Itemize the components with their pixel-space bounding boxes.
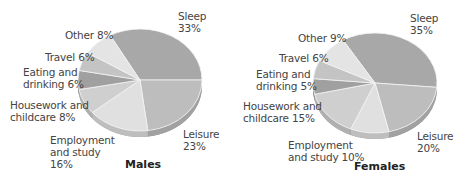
label-text: Employment [50, 134, 115, 146]
label-other: Other 8% [65, 29, 113, 41]
label-value: 33% [178, 22, 206, 34]
label-text: Travel 6% [45, 51, 94, 63]
label-sleep: Sleep 33% [178, 10, 206, 34]
label-value: childcare 15% [243, 112, 322, 124]
label-text: Sleep [178, 10, 206, 22]
label-text: Leisure [183, 128, 219, 140]
label-employment: Employment and study 10% [288, 139, 364, 163]
label-value: 16% [50, 158, 115, 170]
label-housework: Housework and childcare 8% [10, 99, 89, 123]
label-text: Eating and [256, 68, 317, 80]
label-value: drinking 5% [256, 80, 317, 92]
label-value: 20% [417, 142, 453, 154]
slice-leisure [140, 80, 202, 131]
label-text: Sleep [410, 12, 438, 24]
label-text: Leisure [417, 130, 453, 142]
label-value: 23% [183, 140, 219, 152]
label-text: Employment [288, 139, 364, 151]
label-sleep: Sleep 35% [410, 12, 438, 36]
label-employment: Employment and study 16% [50, 134, 115, 170]
label-text: Housework and [10, 99, 89, 111]
label-value: and study 10% [288, 151, 364, 163]
label-text: Housework and [243, 100, 322, 112]
label-travel: Travel 6% [279, 52, 328, 64]
label-text: Other 8% [65, 29, 113, 41]
label-housework: Housework and childcare 15% [243, 100, 322, 124]
label-eating: Eating and drinking 6% [23, 66, 84, 90]
label-travel: Travel 6% [45, 51, 94, 63]
chart-title: Males [125, 158, 161, 171]
label-value: 35% [410, 24, 438, 36]
label-text: and study [50, 146, 115, 158]
label-eating: Eating and drinking 5% [256, 68, 317, 92]
chart-title: Females [354, 160, 405, 173]
males-pie-chart: Sleep 33% Other 8% Travel 6% Eating and … [0, 0, 228, 176]
label-text: Other 9% [298, 32, 346, 44]
label-text: Travel 6% [279, 52, 328, 64]
label-value: drinking 6% [23, 78, 84, 90]
label-other: Other 9% [298, 32, 346, 44]
label-leisure: Leisure 20% [417, 130, 453, 154]
females-pie-chart: Sleep 35% Other 9% Travel 6% Eating and … [228, 0, 456, 176]
label-text: Eating and [23, 66, 84, 78]
label-leisure: Leisure 23% [183, 128, 219, 152]
label-value: childcare 8% [10, 111, 89, 123]
